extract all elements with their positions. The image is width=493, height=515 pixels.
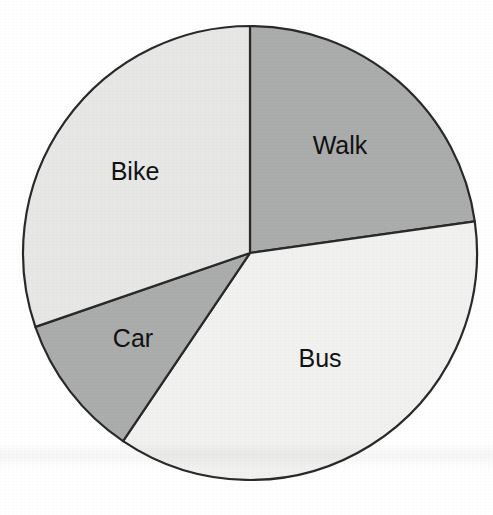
pie-slice-label-bike: Bike: [111, 157, 160, 185]
pie-chart-figure: WalkBusCarBike: [0, 0, 493, 515]
pie-slices-group: [23, 26, 477, 480]
pie-slice-label-car: Car: [113, 324, 153, 352]
pie-slice-label-walk: Walk: [313, 131, 368, 159]
pie-slice-label-bus: Bus: [298, 344, 341, 372]
pie-chart-svg: WalkBusCarBike: [0, 0, 493, 515]
